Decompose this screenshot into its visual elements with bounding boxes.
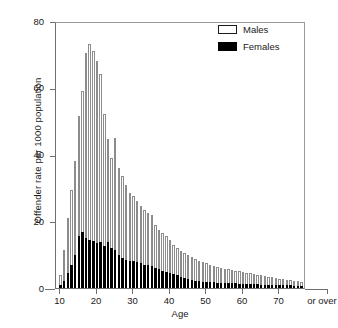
bar-females [194, 281, 196, 288]
y-tick-mark [50, 22, 55, 23]
bar-females [260, 285, 262, 288]
x-axis-left-extension [45, 289, 55, 290]
bar-females [267, 285, 269, 288]
x-tick-mark [205, 289, 206, 294]
x-axis-extension [305, 289, 327, 290]
bar-females [147, 265, 149, 288]
bar-females [81, 232, 83, 288]
bar-females [253, 284, 255, 288]
bar-females [143, 265, 145, 288]
bar-females [286, 285, 288, 288]
bar-females [238, 284, 240, 288]
bar-females [63, 281, 65, 288]
bars-container [56, 23, 304, 288]
bar-females [300, 286, 302, 288]
bar-females [198, 281, 200, 288]
bar-females [278, 285, 280, 288]
bar-females [88, 240, 90, 288]
bar-females [289, 285, 291, 288]
bar-females [205, 282, 207, 288]
bar-females [180, 277, 182, 288]
y-tick-label: 20 [4, 216, 44, 227]
x-tick-label: 10 [39, 295, 79, 306]
bar-females [136, 262, 138, 288]
bar-females [249, 284, 251, 288]
y-tick-mark [50, 222, 55, 223]
bar-females [121, 258, 123, 288]
y-tick-label: 40 [4, 149, 44, 160]
bar-females [59, 285, 61, 288]
bar-females [245, 284, 247, 288]
x-axis-title: Age [55, 308, 305, 319]
bar-females [92, 241, 94, 288]
bar-females [110, 248, 112, 288]
bar-females [161, 271, 163, 288]
bar-females [118, 255, 120, 288]
bar-females [85, 238, 87, 288]
bar-females [202, 282, 204, 288]
offender-rate-by-age-chart: Offender rate per 1000 population 020406… [0, 0, 338, 328]
bar-females [213, 282, 215, 288]
bar-females [256, 284, 258, 288]
bar-females [216, 283, 218, 288]
bar-females [140, 263, 142, 288]
bar-females [96, 243, 98, 288]
y-tick-mark [50, 89, 55, 90]
x-tick-mark [96, 289, 97, 294]
bar-females [293, 286, 295, 288]
bar-females [191, 280, 193, 288]
bar-females [187, 279, 189, 288]
bar-females [234, 283, 236, 288]
bar-females [264, 285, 266, 288]
bar-females [209, 282, 211, 288]
y-tick-label: 0 [4, 283, 44, 294]
bar-females [275, 285, 277, 288]
x-tick-label-or-over: or over [287, 295, 338, 306]
bar-females [125, 260, 127, 288]
bar-females [74, 255, 76, 288]
bar-females [224, 283, 226, 288]
x-tick-mark-end [327, 289, 328, 294]
plot-area [55, 22, 305, 289]
x-tick-mark [169, 289, 170, 294]
bar-females [297, 286, 299, 288]
x-tick-mark [278, 289, 279, 294]
legend-item-females: Females [218, 39, 279, 54]
legend: Males Females [218, 22, 279, 56]
y-tick-label: 60 [4, 82, 44, 93]
x-tick-label: 30 [112, 295, 152, 306]
bar-females [231, 283, 233, 288]
legend-label-females: Females [243, 41, 279, 52]
x-tick-label: 20 [76, 295, 116, 306]
legend-item-males: Males [218, 22, 279, 37]
bar-females [176, 275, 178, 288]
bar-females [282, 285, 284, 288]
y-tick-label: 80 [4, 16, 44, 27]
bar-females [220, 283, 222, 288]
bar-females [107, 242, 109, 288]
bar-females [154, 268, 156, 288]
bar-females [132, 261, 134, 288]
x-tick-label: 50 [185, 295, 225, 306]
bar-females [67, 273, 69, 288]
legend-swatch-males-icon [218, 25, 237, 34]
bar-females [183, 278, 185, 288]
x-tick-label: 40 [149, 295, 189, 306]
bar-females [158, 269, 160, 288]
bar-females [151, 266, 153, 288]
legend-swatch-females-icon [218, 42, 237, 51]
bar-females [78, 236, 80, 288]
bar-females [129, 261, 131, 288]
legend-label-males: Males [243, 24, 268, 35]
bar-females [103, 246, 105, 288]
x-tick-label: 60 [222, 295, 262, 306]
bar-females [242, 284, 244, 288]
bar-females [271, 285, 273, 288]
bar-females [70, 265, 72, 288]
bar-females [172, 274, 174, 288]
bar-females [165, 272, 167, 288]
x-tick-mark [59, 289, 60, 294]
x-tick-mark [242, 289, 243, 294]
bar-females [227, 283, 229, 288]
x-tick-mark [132, 289, 133, 294]
